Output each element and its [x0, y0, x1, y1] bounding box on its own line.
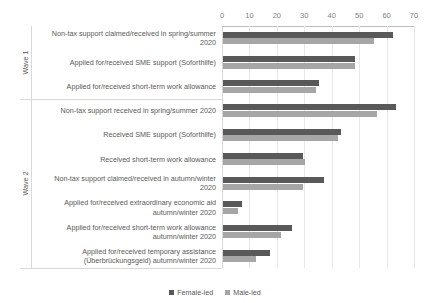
- bar-female-led: [223, 153, 303, 159]
- chart-legend: Female-ledMale-led: [0, 288, 430, 297]
- bar-female-led: [223, 201, 242, 207]
- category-axis-line: [222, 26, 414, 27]
- bar-male-led: [223, 208, 238, 214]
- bar-male-led: [223, 135, 338, 141]
- legend-item[interactable]: Male-led: [225, 288, 261, 297]
- gridline: [387, 26, 388, 268]
- category-label: Received short-term work allowance: [34, 155, 216, 164]
- bar-male-led: [223, 87, 316, 93]
- category-label: Non-tax support claimed/received in autu…: [34, 174, 216, 192]
- category-label: Applied for/received short-term work all…: [34, 223, 216, 241]
- gridline: [359, 26, 360, 268]
- bar-female-led: [223, 56, 355, 62]
- bar-female-led: [223, 104, 396, 110]
- legend-label: Male-led: [233, 288, 261, 297]
- category-label: Applied for/received short-term work all…: [34, 82, 216, 91]
- x-tick-label: 70: [410, 11, 418, 21]
- legend-swatch-icon: [169, 290, 174, 295]
- wave-group-label-1-text: Wave 1: [21, 50, 30, 74]
- legend-swatch-icon: [225, 290, 230, 295]
- x-tick-label: 30: [300, 11, 308, 21]
- plot-area: [222, 26, 414, 268]
- wave-group-label-2: Wave 2: [18, 99, 32, 268]
- bar-male-led: [223, 159, 305, 165]
- bar-male-led: [223, 184, 303, 190]
- wave-group-tick: [31, 26, 32, 99]
- bar-female-led: [223, 32, 393, 38]
- x-tick-label: 10: [245, 11, 253, 21]
- bar-female-led: [223, 250, 270, 256]
- wave-group-divider: [20, 99, 222, 100]
- bar-male-led: [223, 111, 377, 117]
- bar-male-led: [223, 256, 256, 262]
- grouped-bar-chart: 010203040506070 Non-tax support claimed/…: [0, 0, 430, 303]
- bar-male-led: [223, 63, 355, 69]
- legend-label: Female-led: [177, 288, 213, 297]
- x-tick-label: 60: [382, 11, 390, 21]
- x-tick-label: 20: [273, 11, 281, 21]
- x-tick-label: 0: [220, 11, 224, 21]
- plot-bottom-border: [20, 268, 222, 269]
- category-label: Applied for/received SME support (Sofort…: [34, 58, 216, 67]
- category-label: Non-tax support received in spring/summe…: [34, 106, 216, 115]
- bar-female-led: [223, 129, 341, 135]
- x-tick-label: 40: [328, 11, 336, 21]
- x-tick-label: 50: [355, 11, 363, 21]
- legend-item[interactable]: Female-led: [169, 288, 213, 297]
- category-label: Received SME support (Soforthilfe): [34, 130, 216, 139]
- bar-female-led: [223, 225, 292, 231]
- bar-female-led: [223, 80, 319, 86]
- wave-group-tick: [31, 99, 32, 268]
- wave-group-label-1: Wave 1: [18, 26, 32, 99]
- x-axis-tick-labels: 010203040506070: [222, 11, 414, 25]
- category-axis-labels: Non-tax support claimed/received in spri…: [34, 26, 220, 268]
- bar-male-led: [223, 38, 374, 44]
- category-label: Applied for/received extraordinary econo…: [34, 198, 216, 216]
- category-label: Applied for/received temporary assistanc…: [34, 247, 216, 265]
- gridline: [414, 26, 415, 268]
- category-label: Non-tax support claimed/received in spri…: [34, 29, 216, 47]
- wave-group-label-2-text: Wave 2: [21, 171, 30, 195]
- bar-female-led: [223, 177, 324, 183]
- bar-male-led: [223, 232, 281, 238]
